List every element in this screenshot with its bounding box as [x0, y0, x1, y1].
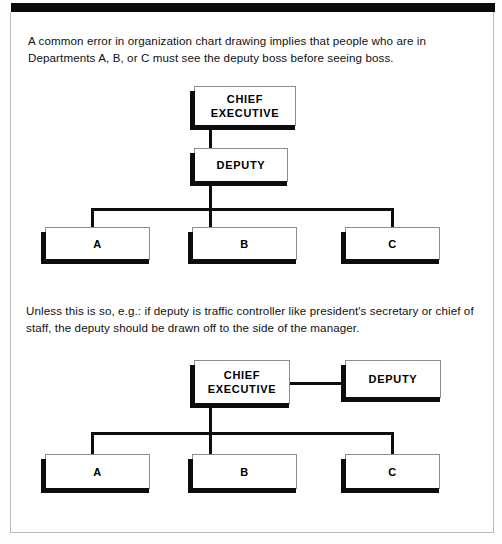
top-rule-bar — [11, 3, 495, 12]
node-label-dept-a-chart1: A — [46, 228, 149, 259]
node-chief-executive-chart1[interactable]: CHIEF EXECUTIVE — [194, 86, 296, 126]
connector-bus-chart2 — [91, 432, 394, 435]
connector-bus-to-c-chart1 — [391, 208, 394, 227]
connector-ce-to-bus-chart2 — [209, 404, 212, 434]
node-label-dept-c-chart1: C — [346, 228, 439, 259]
org-chart-incorrect: CHIEF EXECUTIVE DEPUTY A B C — [0, 78, 502, 278]
caption-top-text: A common error in organization chart dra… — [28, 33, 480, 66]
node-label-deputy-chart1: DEPUTY — [195, 149, 287, 181]
node-dept-c-chart2[interactable]: C — [345, 454, 440, 489]
connector-deputy-to-bus-chart1 — [209, 182, 212, 210]
node-dept-a-chart2[interactable]: A — [45, 454, 150, 489]
connector-bus-to-a-chart2 — [91, 432, 94, 454]
node-label-dept-c-chart2: C — [346, 455, 439, 488]
connector-bus-to-c-chart2 — [391, 432, 394, 454]
node-dept-c-chart1[interactable]: C — [345, 227, 440, 260]
connector-bus-to-b-chart1 — [209, 208, 212, 227]
node-label-chief-executive-chart1: CHIEF EXECUTIVE — [195, 87, 295, 125]
connector-bus-to-a-chart1 — [91, 208, 94, 227]
node-label-chief-executive-chart2: CHIEF EXECUTIVE — [195, 361, 289, 403]
caption-middle-text: Unless this is so, e.g.: if deputy is tr… — [26, 303, 482, 336]
node-dept-a-chart1[interactable]: A — [45, 227, 150, 260]
org-chart-correct: CHIEF EXECUTIVE DEPUTY A B C — [0, 350, 502, 520]
node-dept-b-chart2[interactable]: B — [192, 454, 297, 489]
node-label-dept-b-chart2: B — [193, 455, 296, 488]
node-label-dept-b-chart1: B — [193, 228, 296, 259]
node-chief-executive-chart2[interactable]: CHIEF EXECUTIVE — [194, 360, 290, 404]
connector-ce-to-deputy-chart2 — [290, 382, 345, 385]
node-label-deputy-chart2: DEPUTY — [346, 361, 440, 397]
node-deputy-chart2[interactable]: DEPUTY — [345, 360, 441, 398]
node-dept-b-chart1[interactable]: B — [192, 227, 297, 260]
connector-bus-chart1 — [91, 208, 394, 211]
connector-bus-to-b-chart2 — [209, 432, 212, 454]
node-label-dept-a-chart2: A — [46, 455, 149, 488]
node-deputy-chart1[interactable]: DEPUTY — [194, 148, 288, 182]
figure-page: A common error in organization chart dra… — [0, 0, 502, 544]
